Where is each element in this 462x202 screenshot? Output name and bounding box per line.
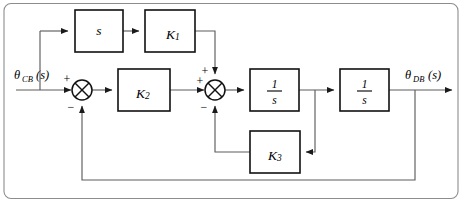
block-gain-k3[interactable]: K 3 [250, 131, 300, 173]
input-label-symbol: θ [14, 68, 20, 82]
summing-junction-1[interactable]: + − [64, 72, 92, 114]
summing-junction-2-sign-left: + [197, 74, 204, 88]
block-integrator-1-denominator: s [272, 94, 277, 106]
output-label: θ DB (s) [405, 68, 441, 84]
block-gain-k1-subscript: 1 [175, 32, 180, 42]
block-integrator-2[interactable]: 1 s [340, 69, 389, 111]
block-gain-k3-subscript: 3 [276, 153, 282, 163]
input-label-subscript: CB [22, 74, 33, 84]
block-integrator-2-numerator: 1 [362, 78, 368, 90]
block-integrator-1[interactable]: 1 s [250, 69, 299, 111]
block-gain-k1[interactable]: K 1 [145, 10, 195, 52]
block-diagram-canvas: s K 1 K 2 1 s 1 s [0, 0, 462, 202]
wire-k3-to-sum2-bottom [215, 106, 250, 152]
block-derivative[interactable]: s [75, 10, 123, 52]
summing-junction-2-sign-bottom: − [201, 100, 208, 114]
output-label-subscript: DB [412, 74, 424, 84]
summing-junction-1-sign-left: + [64, 72, 71, 86]
block-gain-k2[interactable]: K 2 [118, 69, 170, 111]
output-label-symbol: θ [405, 68, 411, 82]
block-integrator-2-denominator: s [362, 94, 367, 106]
block-integrator-1-numerator: 1 [272, 78, 278, 90]
wire-tap-to-k3 [306, 90, 315, 152]
block-gain-k2-subscript: 2 [145, 91, 150, 101]
summing-junction-2[interactable]: + + − [197, 64, 225, 114]
block-derivative-label: s [96, 23, 101, 38]
summing-junction-1-sign-bottom: − [68, 100, 75, 114]
block-diagram-svg: s K 1 K 2 1 s 1 s [0, 0, 462, 202]
output-label-argument: (s) [428, 68, 441, 82]
input-label-argument: (s) [36, 68, 49, 82]
input-label: θ CB (s) [14, 68, 49, 84]
